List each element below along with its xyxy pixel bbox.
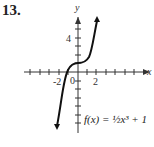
function-label: f(x) = ½x³ + 1	[84, 113, 147, 125]
curve-arrow-down-icon	[54, 124, 60, 130]
x-tick-label-2: 2	[93, 76, 98, 87]
curve-arrow-up-icon	[94, 16, 100, 22]
y-tick-label-4: 4	[66, 33, 71, 44]
y-axis-label: y	[75, 2, 79, 13]
origin-label: 0	[70, 75, 75, 86]
function-curve	[57, 21, 97, 126]
x-axis-label: x	[147, 66, 151, 77]
y-axis-arrow-icon	[75, 17, 81, 24]
x-tick-label-neg2: -2	[53, 76, 61, 87]
